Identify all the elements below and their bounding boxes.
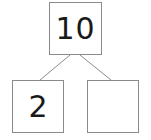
- left-connector: [40, 55, 70, 80]
- part-box-left: 2: [12, 80, 64, 133]
- part-value-left: 2: [28, 89, 47, 124]
- whole-value: 10: [55, 11, 95, 46]
- right-connector: [80, 55, 111, 80]
- whole-box: 10: [49, 2, 102, 55]
- part-box-right[interactable]: [87, 80, 139, 133]
